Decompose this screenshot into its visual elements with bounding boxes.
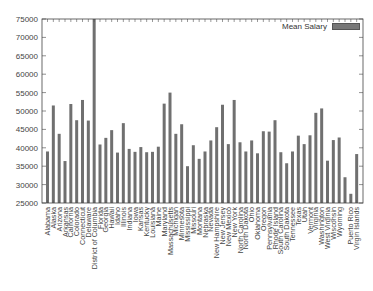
- y-tick-label: 75000: [16, 15, 39, 24]
- bar: [192, 145, 195, 203]
- bar: [291, 151, 294, 203]
- bar: [233, 100, 236, 203]
- bar-chart: AlabamaAlaskaArizonaArkansasCaliforniaCo…: [0, 0, 373, 291]
- bar: [81, 100, 84, 203]
- bar: [262, 131, 265, 203]
- bar: [151, 152, 154, 203]
- bar: [285, 163, 288, 203]
- bar: [180, 124, 183, 203]
- bar: [174, 134, 177, 203]
- bar: [75, 120, 78, 203]
- bar: [279, 152, 282, 203]
- bar: [58, 134, 61, 203]
- bar: [309, 135, 312, 203]
- bar: [227, 144, 230, 203]
- bar: [221, 105, 224, 203]
- bar: [297, 136, 300, 203]
- bar: [64, 161, 67, 203]
- bar: [326, 161, 329, 203]
- bar: [256, 153, 259, 203]
- bar: [99, 144, 102, 203]
- bar: [163, 104, 166, 203]
- y-tick-label: 65000: [16, 52, 39, 61]
- legend-swatch: [332, 23, 360, 30]
- bar: [303, 144, 306, 203]
- bar: [250, 140, 253, 203]
- y-tick-label: 50000: [16, 107, 39, 116]
- bar: [268, 132, 271, 203]
- bar: [52, 105, 55, 203]
- bar: [338, 137, 341, 203]
- bar: [239, 142, 242, 203]
- bar: [344, 177, 347, 203]
- bar: [145, 152, 148, 203]
- bar: [215, 127, 218, 203]
- y-tick-label: 35000: [16, 162, 39, 171]
- bar: [332, 140, 335, 203]
- bar: [320, 108, 323, 203]
- bar: [134, 152, 137, 203]
- bar: [355, 154, 358, 203]
- bar: [244, 151, 247, 203]
- bar: [87, 121, 90, 203]
- y-tick-label: 55000: [16, 89, 39, 98]
- bar: [104, 138, 107, 203]
- bar: [128, 149, 131, 203]
- bar: [110, 130, 113, 203]
- bar: [209, 140, 212, 203]
- legend: Mean Salary: [282, 22, 360, 31]
- y-tick-label: 45000: [16, 125, 39, 134]
- bar: [198, 159, 201, 203]
- bar: [46, 151, 49, 203]
- bar: [314, 113, 317, 203]
- bar: [274, 120, 277, 203]
- bar: [122, 123, 125, 203]
- y-tick-label: 70000: [16, 33, 39, 42]
- legend-label: Mean Salary: [282, 22, 327, 31]
- bar: [139, 147, 142, 203]
- bar: [157, 147, 160, 203]
- bar: [93, 19, 96, 203]
- x-tick-label: Wyoming: [335, 207, 344, 237]
- y-tick-label: 25000: [16, 199, 39, 208]
- bar: [69, 104, 72, 203]
- y-tick-label: 40000: [16, 144, 39, 153]
- bar: [204, 151, 207, 203]
- y-tick-label: 60000: [16, 70, 39, 79]
- x-tick-label: Virgin Islands: [352, 207, 361, 250]
- y-tick-label: 30000: [16, 181, 39, 190]
- bar: [169, 93, 172, 203]
- bar: [186, 166, 189, 203]
- bar: [116, 153, 119, 203]
